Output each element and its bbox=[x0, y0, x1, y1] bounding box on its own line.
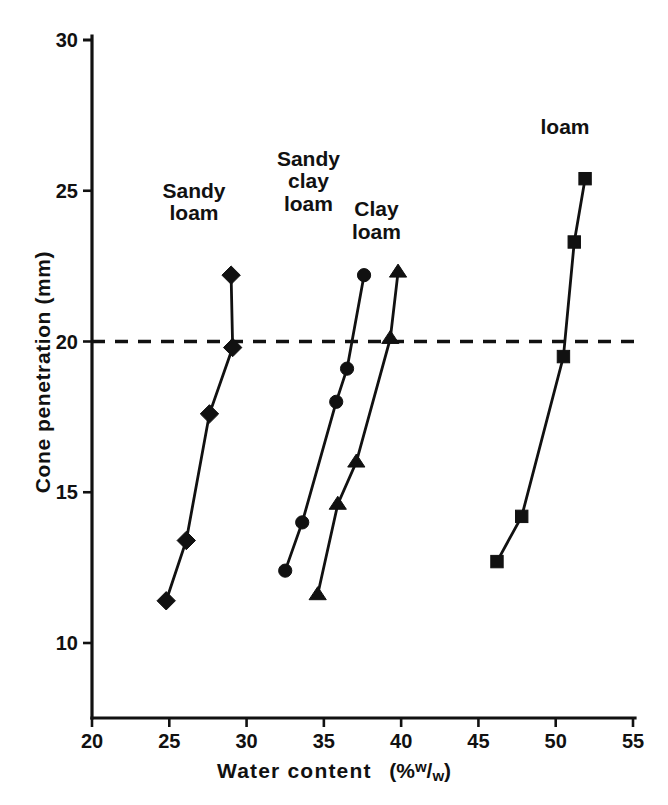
series-line-2 bbox=[318, 272, 398, 595]
x-axis-unit-open: (% bbox=[389, 759, 415, 782]
series-1-marker-2 bbox=[330, 395, 343, 408]
series-3-marker-3 bbox=[568, 236, 580, 248]
series-2-marker-0 bbox=[309, 587, 326, 600]
series-3-marker-2 bbox=[557, 350, 569, 362]
series-1-marker-0 bbox=[279, 564, 292, 577]
series-1-marker-4 bbox=[357, 269, 370, 282]
x-tick-label-25: 25 bbox=[158, 730, 180, 753]
y-tick-label-30: 30 bbox=[56, 29, 78, 52]
x-tick-label-40: 40 bbox=[390, 730, 412, 753]
series-0-marker-1 bbox=[177, 531, 195, 549]
series-annotation-2: Clay loam bbox=[352, 198, 401, 243]
x-tick-label-20: 20 bbox=[81, 730, 103, 753]
x-axis-unit-superscript: w bbox=[415, 758, 427, 775]
series-2-marker-2 bbox=[348, 454, 365, 467]
series-1-marker-1 bbox=[296, 516, 309, 529]
x-tick-label-45: 45 bbox=[467, 730, 489, 753]
y-tick-label-10: 10 bbox=[56, 632, 78, 655]
x-tick-label-35: 35 bbox=[313, 730, 335, 753]
series-3-marker-1 bbox=[516, 510, 528, 522]
x-axis-unit-subscript: w bbox=[432, 767, 444, 784]
y-tick-label-20: 20 bbox=[56, 330, 78, 353]
x-tick-label-30: 30 bbox=[235, 730, 257, 753]
chart-figure: 2025303540455055 1015202530 Sandy loamSa… bbox=[0, 0, 668, 805]
series-3-marker-0 bbox=[491, 555, 503, 567]
x-tick-label-50: 50 bbox=[545, 730, 567, 753]
y-tick-label-25: 25 bbox=[56, 179, 78, 202]
x-axis-title: Water content (%w/w) bbox=[0, 758, 668, 784]
y-axis-title: Cone penetration (mm) bbox=[31, 222, 55, 522]
x-axis-title-text: Water content bbox=[217, 759, 372, 782]
series-0-marker-0 bbox=[157, 592, 175, 610]
series-0-marker-2 bbox=[200, 405, 218, 423]
x-axis-unit-close: ) bbox=[444, 759, 451, 782]
series-1-marker-3 bbox=[340, 362, 353, 375]
series-3-marker-4 bbox=[579, 172, 591, 184]
series-2-marker-4 bbox=[389, 264, 406, 277]
series-annotation-3: loam bbox=[540, 116, 589, 139]
series-2-marker-1 bbox=[329, 496, 346, 509]
series-annotation-1: Sandy clay loam bbox=[277, 148, 340, 216]
series-2-marker-3 bbox=[382, 330, 399, 343]
x-tick-label-55: 55 bbox=[622, 730, 644, 753]
series-0-marker-4 bbox=[222, 266, 240, 284]
series-line-0 bbox=[166, 275, 232, 601]
y-tick-label-15: 15 bbox=[56, 481, 78, 504]
series-annotation-0: Sandy loam bbox=[163, 180, 226, 225]
x-axis-unit: (%w/w) bbox=[372, 759, 451, 782]
